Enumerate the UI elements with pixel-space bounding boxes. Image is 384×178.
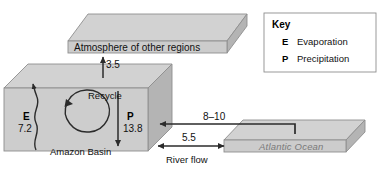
atmosphere-box-label: Atmosphere of other regions [74, 43, 200, 53]
key-label-evaporation: Evaporation [297, 37, 348, 47]
river-flow-value: 5.5 [182, 133, 196, 143]
amazon-basin-box [4, 64, 172, 151]
river-flow-label: River flow [166, 155, 208, 165]
amazon-basin-label: Amazon Basin [50, 147, 111, 157]
flow-value-to-atmosphere: 3.5 [106, 60, 120, 70]
recycle-label: Recycle [88, 91, 122, 101]
evaporation-symbol: E [23, 112, 30, 122]
ocean-to-basin-value: 8–10 [203, 112, 225, 122]
atlantic-ocean-label: Atlantic Ocean [259, 142, 324, 152]
key-symbol-precipitation: P [282, 54, 288, 64]
precipitation-value: 13.8 [123, 124, 142, 134]
key-symbol-evaporation: E [282, 37, 288, 47]
key-title: Key [272, 20, 290, 30]
precipitation-symbol: P [127, 112, 134, 122]
key-label-precipitation: Precipitation [297, 54, 349, 64]
evaporation-value: 7.2 [18, 124, 32, 134]
diagram-canvas: Atmosphere of other regions 3.5 E 7.2 Re… [0, 0, 384, 178]
